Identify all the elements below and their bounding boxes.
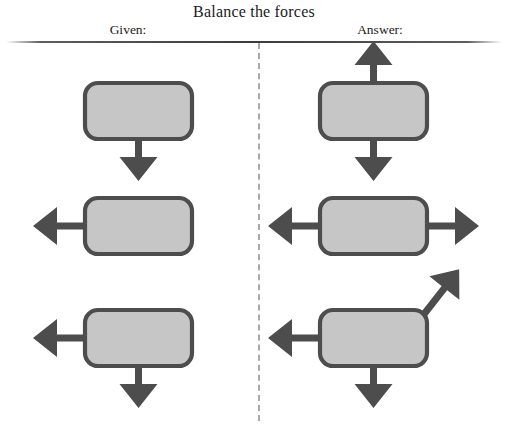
row-3-answer-figure-force-down — [355, 366, 393, 408]
row-2-answer-figure — [268, 198, 479, 254]
force-diagram-canvas — [0, 0, 508, 424]
row-1-answer-figure — [320, 41, 427, 181]
row-1-given-figure-body — [85, 83, 192, 139]
row-1-given-figure — [85, 83, 192, 181]
row-2-answer-figure-force-left — [268, 207, 320, 245]
row-3-given-figure-force-left — [33, 319, 85, 357]
diagram-root — [33, 41, 479, 408]
row-1-answer-figure-force-down — [355, 139, 393, 181]
row-1-answer-figure-force-up — [355, 41, 393, 83]
row-2-answer-figure-body — [320, 198, 427, 254]
row-2-answer-figure-force-right — [427, 207, 479, 245]
row-3-given-figure-body — [85, 310, 192, 366]
row-3-answer-figure-force-left — [268, 319, 320, 357]
row-1-answer-figure-body — [320, 83, 427, 139]
row-3-given-figure-force-down — [120, 366, 158, 408]
row-2-given-figure — [33, 198, 192, 254]
row-1-given-figure-force-down — [120, 139, 158, 181]
row-3-answer-figure — [268, 257, 474, 408]
row-2-given-figure-body — [85, 198, 192, 254]
worksheet: Balance the forces Given: Answer: — [0, 0, 508, 424]
row-3-given-figure — [33, 310, 192, 408]
row-2-given-figure-force-left — [33, 207, 85, 245]
row-3-answer-figure-body — [320, 310, 427, 366]
